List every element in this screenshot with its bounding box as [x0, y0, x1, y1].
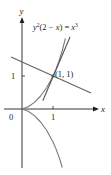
- axes: [4, 17, 99, 168]
- curve-equation: y2(2 − x) = x3: [32, 22, 78, 33]
- cissoid-lower-branch: [22, 109, 62, 168]
- y-axis-label: y: [19, 6, 24, 16]
- x-axis-label: x: [100, 104, 105, 114]
- normal-line: [11, 57, 91, 93]
- y-axis-arrow-icon: [20, 17, 25, 23]
- cissoid-diagram: y x 0 1 1 (1, 1) y2(2 − x) = x3: [0, 0, 111, 175]
- point-label: (1, 1): [55, 69, 74, 79]
- origin-label: 0: [9, 112, 13, 122]
- x-tick-label: 1: [51, 112, 55, 122]
- eq-close: ) =: [59, 22, 71, 32]
- x-axis-arrow-icon: [93, 107, 99, 112]
- eq-exp-3: 3: [75, 22, 78, 28]
- eq-middle: (2 −: [40, 22, 56, 32]
- y-tick-label: 1: [11, 71, 15, 81]
